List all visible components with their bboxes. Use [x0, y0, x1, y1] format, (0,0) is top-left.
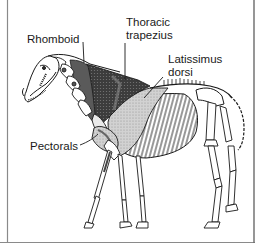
skull	[23, 56, 60, 102]
label-latissimus-line1: Latissimus	[168, 53, 222, 65]
hind-leg-right	[220, 106, 238, 212]
label-rhomboid: Rhomboid	[27, 33, 79, 45]
hind-leg-left	[204, 102, 222, 228]
label-pectorals: Pectorals	[30, 140, 78, 152]
label-thoracic-trapezius-line2: trapezius	[126, 29, 173, 41]
front-leg-right	[118, 154, 132, 228]
label-thoracic-trapezius-line1: Thoracic	[126, 16, 170, 28]
rhomboid-leader-line	[83, 42, 84, 63]
tail	[230, 96, 244, 150]
front-leg-left	[84, 150, 112, 228]
front-leg-rear-small	[136, 156, 148, 228]
label-latissimus-line2: dorsi	[168, 66, 193, 78]
